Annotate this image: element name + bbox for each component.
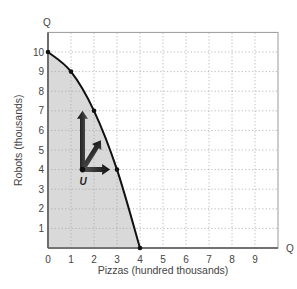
ppf-chart: U 012345678912345678910 Pizzas (hundred … [0, 0, 297, 289]
ppf-point [46, 50, 51, 55]
y-tick-label: 10 [33, 47, 45, 58]
y-tick-label: 5 [38, 145, 44, 156]
point-label-u: U [80, 176, 88, 187]
y-tick-label: 7 [38, 105, 44, 116]
point-u [80, 167, 86, 173]
y-tick-label: 3 [38, 184, 44, 195]
ppf-point [138, 246, 143, 251]
x-tick-label: 1 [68, 254, 74, 265]
y-tick-label: 4 [38, 164, 44, 175]
x-tick-label: 2 [91, 254, 97, 265]
x-tick-label: 8 [229, 254, 235, 265]
x-tick-label: 9 [252, 254, 258, 265]
y-axis-label: Robots (thousands) [12, 94, 24, 186]
y-axis-end-label: Q [43, 17, 51, 28]
x-tick-label: 0 [45, 254, 51, 265]
y-tick-label: 8 [38, 86, 44, 97]
ppf-point [115, 167, 120, 172]
x-axis-label: Pizzas (hundred thousands) [98, 264, 229, 276]
x-axis-end-label: Q [286, 243, 294, 254]
y-tick-label: 2 [38, 203, 44, 214]
ppf-point [69, 69, 74, 74]
y-tick-label: 1 [38, 223, 44, 234]
ppf-point [92, 109, 97, 114]
y-tick-label: 6 [38, 125, 44, 136]
y-tick-label: 9 [38, 66, 44, 77]
